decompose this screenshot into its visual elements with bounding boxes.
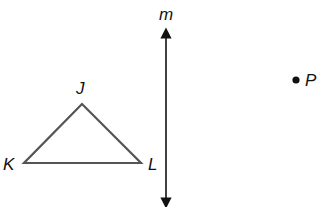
point-p-dot	[292, 76, 299, 83]
triangle-jkl	[24, 104, 141, 163]
diagram-canvas: J K L m P	[0, 0, 320, 207]
line-label-m: m	[159, 5, 173, 24]
vertex-label-l: L	[148, 155, 157, 174]
point-label-p: P	[305, 71, 317, 90]
vertex-label-k: K	[3, 155, 15, 174]
vertex-label-j: J	[75, 79, 85, 98]
